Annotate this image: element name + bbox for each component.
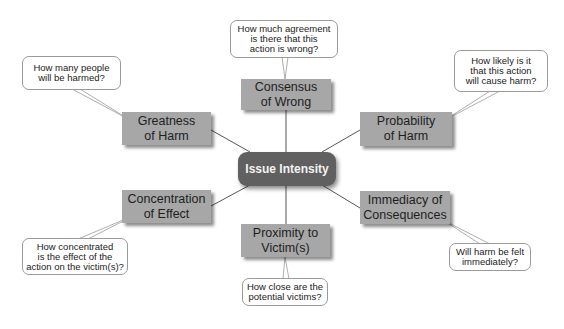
node-immediacy-of-consequences: Immediacy of Consequences xyxy=(360,191,450,224)
center-node-issue-intensity: Issue Intensity xyxy=(238,152,336,186)
question-bubble-concentration: How concentrated is the effect of the ac… xyxy=(22,238,128,275)
node-probability-of-harm: Probability of Harm xyxy=(360,112,452,146)
question-bubble-probability: How likely is it that this action will c… xyxy=(454,50,548,92)
node-greatness-of-harm: Greatness of Harm xyxy=(122,112,211,145)
question-bubble-greatness: How many people will be harmed? xyxy=(22,56,121,90)
node-proximity-to-victims: Proximity to Victim(s) xyxy=(241,224,330,257)
node-concentration-of-effect: Concentration of Effect xyxy=(122,190,211,223)
question-bubble-proximity: How close are the potential victims? xyxy=(242,278,328,306)
node-consensus-of-wrong: Consensus of Wrong xyxy=(241,79,331,110)
question-bubble-immediacy: Will harm be felt immediately? xyxy=(449,243,531,271)
question-bubble-consensus: How much agreement is there that this ac… xyxy=(230,20,338,58)
